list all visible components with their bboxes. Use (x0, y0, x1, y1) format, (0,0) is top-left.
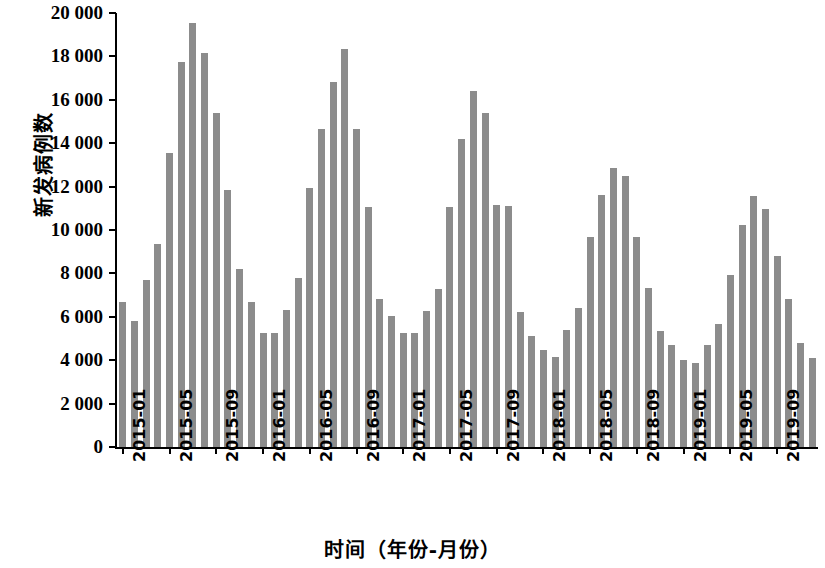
x-axis-tick (402, 448, 404, 454)
bar (446, 207, 453, 447)
y-axis-tick (109, 403, 116, 405)
x-axis-tick-label: 2019-09 (784, 389, 803, 462)
x-axis-tick-label: 2019-01 (691, 389, 710, 462)
bar (715, 324, 722, 447)
y-axis-tick-label: 10 000 (3, 220, 103, 239)
y-axis-tick (109, 229, 116, 231)
x-axis-tick (262, 448, 264, 454)
x-axis-tick (215, 448, 217, 454)
x-axis-tick (122, 448, 124, 454)
x-axis-tick (729, 448, 731, 454)
x-axis-tick-label: 2017-09 (504, 389, 523, 462)
bar (482, 113, 489, 447)
y-axis-tick-label: 12 000 (3, 177, 103, 196)
y-axis-tick (109, 316, 116, 318)
bar (435, 289, 442, 447)
y-axis-tick-label: 20 000 (3, 3, 103, 22)
bar (668, 345, 675, 447)
y-axis-tick (109, 12, 116, 14)
bar (622, 176, 629, 447)
x-axis-tick-label: 2019-05 (737, 389, 756, 462)
y-axis-tick-label: 14 000 (3, 133, 103, 152)
x-axis-title: 时间（年份-月份） (0, 534, 825, 563)
y-axis-tick-label: 4 000 (3, 350, 103, 369)
bar (213, 113, 220, 447)
bar (189, 23, 196, 447)
bar (540, 350, 547, 447)
y-axis-tick (109, 142, 116, 144)
x-axis-tick (776, 448, 778, 454)
x-axis-tick-label: 2016-05 (317, 389, 336, 462)
x-axis-tick (636, 448, 638, 454)
x-axis-tick-label: 2017-01 (410, 389, 429, 462)
y-axis-tick-label: 16 000 (3, 90, 103, 109)
bar (166, 153, 173, 447)
bar (575, 308, 582, 447)
x-axis-tick (542, 448, 544, 454)
x-axis-tick-label: 2016-01 (270, 389, 289, 462)
x-axis-tick-label: 2015-01 (130, 389, 149, 462)
y-axis-tick (109, 446, 116, 448)
x-axis-tick (683, 448, 685, 454)
bar (119, 302, 126, 447)
plot-area (117, 13, 818, 447)
bar (762, 209, 769, 447)
bar (528, 336, 535, 447)
bar (248, 302, 255, 447)
x-axis-tick (449, 448, 451, 454)
y-axis-tick-label: 18 000 (3, 46, 103, 65)
bar (353, 129, 360, 447)
x-axis-tick-label: 2018-01 (550, 389, 569, 462)
x-axis-tick (589, 448, 591, 454)
x-axis-tick (496, 448, 498, 454)
y-axis-tick (109, 99, 116, 101)
bar (306, 188, 313, 447)
y-axis-tick (109, 186, 116, 188)
incidence-bar-chart: 新发病例数 02 0004 0006 0008 00010 00012 0001… (0, 0, 825, 568)
bar (388, 316, 395, 447)
x-axis-tick-label: 2015-05 (177, 389, 196, 462)
bar (260, 333, 267, 447)
y-axis-tick (109, 55, 116, 57)
bar (774, 256, 781, 447)
y-axis-tick (109, 272, 116, 274)
bar (400, 333, 407, 447)
y-axis-tick-label: 0 (3, 437, 103, 456)
x-axis-tick (356, 448, 358, 454)
x-axis-tick (309, 448, 311, 454)
bar (295, 278, 302, 447)
bar (809, 358, 816, 447)
bar (493, 205, 500, 447)
x-axis-tick-label: 2018-05 (597, 389, 616, 462)
y-axis-tick-label: 8 000 (3, 263, 103, 282)
bar (154, 244, 161, 447)
bar (341, 49, 348, 447)
bar (633, 237, 640, 447)
bar (201, 53, 208, 447)
x-axis-tick-label: 2018-09 (644, 389, 663, 462)
y-axis-tick-label: 2 000 (3, 394, 103, 413)
x-axis-tick-label: 2015-09 (223, 389, 242, 462)
x-axis-tick (169, 448, 171, 454)
x-axis-tick-label: 2017-05 (457, 389, 476, 462)
bar (680, 360, 687, 447)
bar (727, 275, 734, 448)
y-axis-tick-label: 6 000 (3, 307, 103, 326)
y-axis-tick (109, 359, 116, 361)
x-axis-tick-label: 2016-09 (364, 389, 383, 462)
bar (587, 237, 594, 447)
